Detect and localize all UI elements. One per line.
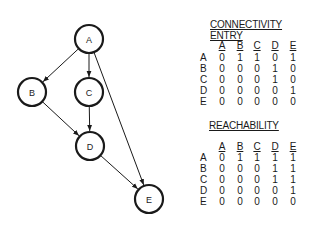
reachability-cell: 1 bbox=[287, 185, 299, 196]
connectivity-col-header: D bbox=[269, 40, 281, 51]
reachability-col-header: E bbox=[287, 141, 299, 152]
graph-nodes: ABCDE bbox=[18, 25, 163, 213]
reachability-cell: 0 bbox=[234, 196, 246, 207]
reachability-cell: 0 bbox=[216, 152, 228, 163]
connectivity-cell: 0 bbox=[269, 85, 281, 96]
connectivity-cell: 1 bbox=[269, 74, 281, 85]
reachability-cell: 0 bbox=[234, 174, 246, 185]
graph-edges bbox=[42, 49, 143, 189]
connectivity-col-header: E bbox=[287, 40, 299, 51]
node-a: A bbox=[75, 25, 103, 53]
reachability-title: REACHABILITY bbox=[209, 120, 279, 131]
reachability-row-header: A bbox=[200, 152, 210, 163]
connectivity-cell: 0 bbox=[287, 96, 299, 107]
node-label: A bbox=[86, 35, 92, 45]
edge-a-to-e bbox=[94, 52, 144, 185]
reachability-cell: 0 bbox=[251, 196, 263, 207]
connectivity-cell: 0 bbox=[216, 85, 228, 96]
reachability-cell: 0 bbox=[269, 196, 281, 207]
connectivity-cell: 0 bbox=[234, 85, 246, 96]
reachability-cell: 1 bbox=[287, 174, 299, 185]
edge-a-to-b bbox=[43, 49, 79, 82]
reachability-col-header: B bbox=[234, 141, 246, 152]
connectivity-cell: 0 bbox=[216, 52, 228, 63]
reachability-cell: 1 bbox=[287, 152, 299, 163]
reachability-cell: 0 bbox=[287, 196, 299, 207]
node-e: E bbox=[135, 185, 163, 213]
reachability-cell: 0 bbox=[234, 185, 246, 196]
reachability-cell: 1 bbox=[287, 163, 299, 174]
connectivity-row-header: C bbox=[200, 74, 210, 85]
connectivity-cell: 1 bbox=[287, 52, 299, 63]
connectivity-col-header: A bbox=[216, 40, 228, 51]
connectivity-col-header: C bbox=[251, 40, 263, 51]
reachability-cell: 1 bbox=[269, 174, 281, 185]
reachability-col-header: D bbox=[269, 141, 281, 152]
reachability-cell: 0 bbox=[216, 163, 228, 174]
connectivity-cell: 0 bbox=[216, 96, 228, 107]
reachability-cell: 1 bbox=[269, 163, 281, 174]
reachability-cell: 0 bbox=[216, 185, 228, 196]
reachability-cell: 0 bbox=[269, 185, 281, 196]
reachability-col-header: C bbox=[251, 141, 263, 152]
reachability-cell: 0 bbox=[251, 174, 263, 185]
edge-d-to-e bbox=[100, 155, 137, 189]
node-d: D bbox=[76, 132, 104, 160]
node-c: C bbox=[75, 78, 103, 106]
reachability-col-header: A bbox=[216, 141, 228, 152]
connectivity-cell: 0 bbox=[251, 74, 263, 85]
connectivity-row-header: D bbox=[200, 85, 210, 96]
connectivity-row-header: B bbox=[200, 63, 210, 74]
reachability-cell: 0 bbox=[216, 174, 228, 185]
connectivity-cell: 0 bbox=[251, 96, 263, 107]
connectivity-cell: 0 bbox=[216, 63, 228, 74]
connectivity-cell: 1 bbox=[234, 52, 246, 63]
node-label: C bbox=[86, 88, 93, 98]
directed-graph: ABCDE bbox=[0, 0, 180, 227]
node-label: E bbox=[146, 195, 152, 205]
node-label: D bbox=[87, 142, 94, 152]
reachability-cell: 0 bbox=[234, 163, 246, 174]
connectivity-row-header: A bbox=[200, 52, 210, 63]
reachability-row-header: E bbox=[200, 196, 210, 207]
connectivity-cell: 0 bbox=[234, 74, 246, 85]
node-b: B bbox=[18, 78, 46, 106]
connectivity-cell: 0 bbox=[287, 63, 299, 74]
reachability-cell: 1 bbox=[251, 152, 263, 163]
connectivity-cell: 0 bbox=[216, 74, 228, 85]
reachability-cell: 1 bbox=[269, 152, 281, 163]
reachability-cell: 0 bbox=[251, 185, 263, 196]
edge-b-to-d bbox=[42, 102, 79, 136]
connectivity-cell: 0 bbox=[234, 96, 246, 107]
connectivity-cell: 1 bbox=[269, 63, 281, 74]
reachability-row-header: C bbox=[200, 174, 210, 185]
connectivity-cell: 0 bbox=[269, 96, 281, 107]
connectivity-title: CONNECTIVITY bbox=[210, 19, 282, 30]
reachability-cell: 0 bbox=[251, 163, 263, 174]
connectivity-cell: 0 bbox=[251, 85, 263, 96]
connectivity-cell: 1 bbox=[251, 52, 263, 63]
connectivity-cell: 0 bbox=[269, 52, 281, 63]
reachability-row-header: B bbox=[200, 163, 210, 174]
connectivity-row-header: E bbox=[200, 96, 210, 107]
reachability-cell: 0 bbox=[216, 196, 228, 207]
connectivity-cell: 0 bbox=[287, 74, 299, 85]
connectivity-cell: 1 bbox=[287, 85, 299, 96]
connectivity-cell: 0 bbox=[234, 63, 246, 74]
reachability-cell: 1 bbox=[234, 152, 246, 163]
node-label: B bbox=[29, 88, 35, 98]
connectivity-col-header: B bbox=[234, 40, 246, 51]
connectivity-cell: 0 bbox=[251, 63, 263, 74]
reachability-row-header: D bbox=[200, 185, 210, 196]
